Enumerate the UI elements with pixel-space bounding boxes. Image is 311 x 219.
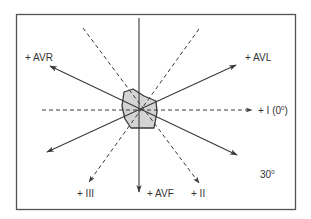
hexaxial-diagram: + AVR + AVL + I (00) + III + AVF + II 30… [0, 0, 311, 219]
lead-ii-label: + II [191, 188, 205, 199]
lead-iii-label: + III [77, 188, 94, 199]
lead-i-label: + I (00) [258, 105, 288, 116]
lead-avr-label: + AVR [25, 52, 53, 63]
angle-spacing-label: 300 [260, 169, 275, 180]
lead-avl-label: + AVL [245, 52, 272, 63]
lead-iii-axis [89, 29, 199, 182]
lead-avf-label: + AVF [147, 188, 174, 199]
